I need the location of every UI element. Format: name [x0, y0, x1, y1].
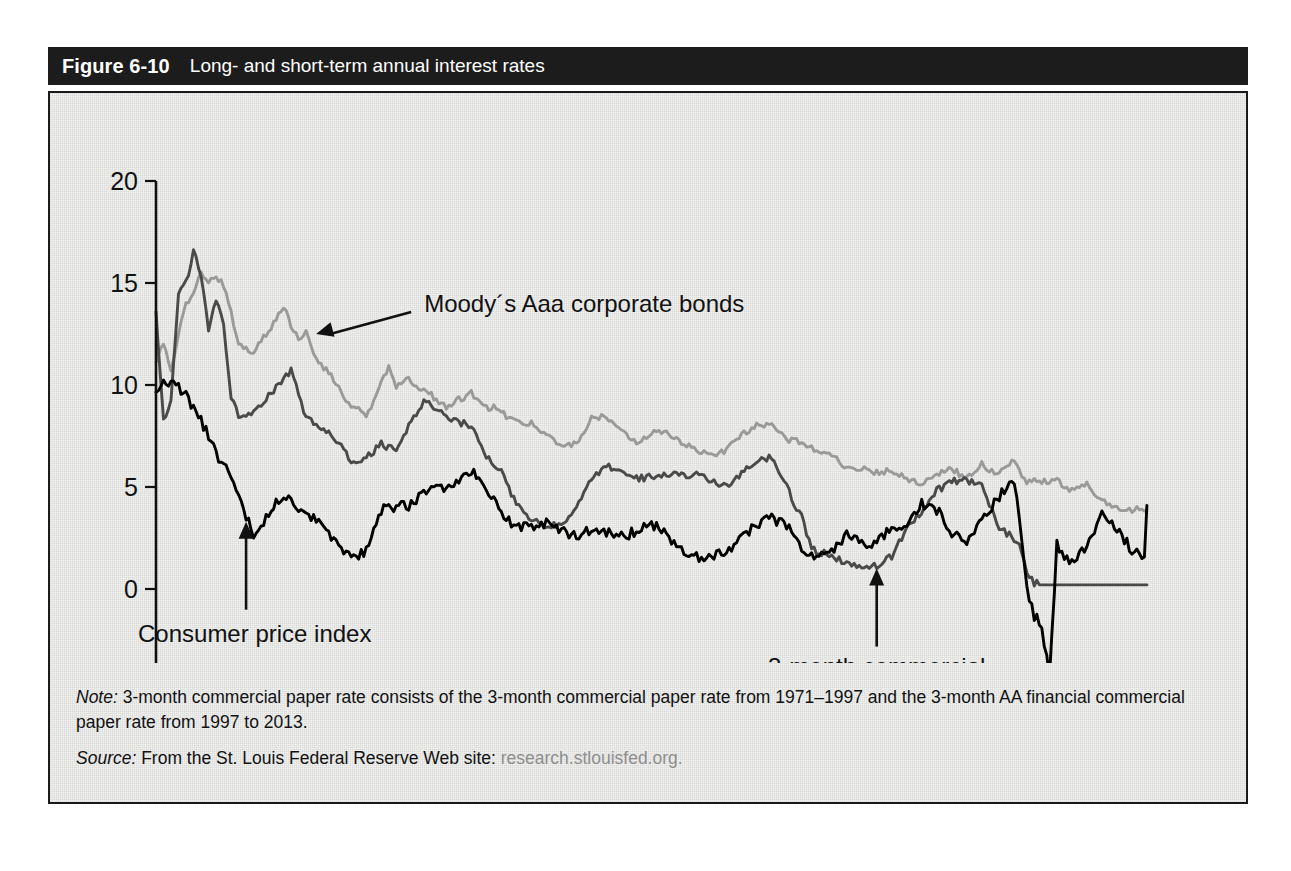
note-line: Note: 3-month commercial paper rate cons… — [76, 685, 1216, 735]
note-label: Note: — [76, 687, 118, 707]
chart-panel: -505101520198019851990199520002005201020… — [48, 91, 1248, 804]
annotation-label: 3-month commercial — [768, 653, 985, 663]
figure-container: Figure 6-10 Long- and short-term annual … — [48, 47, 1248, 804]
y-tick-label: 15 — [110, 269, 138, 297]
source-line: Source: From the St. Louis Federal Reser… — [76, 746, 1216, 771]
y-tick-label: 10 — [110, 371, 138, 399]
figure-notes: Note: 3-month commercial paper rate cons… — [76, 685, 1216, 782]
annotation-label: Moody´s Aaa corporate bonds — [424, 290, 744, 317]
source-text: From the St. Louis Federal Reserve Web s… — [136, 748, 500, 768]
arrowhead — [316, 322, 334, 336]
arrowhead — [869, 569, 884, 586]
axes-layer: -505101520198019851990199520002005201020… — [110, 167, 1235, 663]
figure-number: Figure 6-10 — [62, 55, 170, 78]
figure-title: Long- and short-term annual interest rat… — [190, 55, 545, 77]
figure-title-bar: Figure 6-10 Long- and short-term annual … — [48, 47, 1248, 85]
source-label: Source: — [76, 748, 136, 768]
y-tick-label: 5 — [124, 473, 138, 501]
annotation-label: Consumer price index — [138, 620, 371, 647]
interest-rates-line-chart: -505101520198019851990199520002005201020… — [50, 93, 1246, 663]
y-tick-label: 0 — [124, 575, 138, 603]
note-text: 3-month commercial paper rate consists o… — [76, 687, 1185, 732]
y-tick-label: 20 — [110, 167, 138, 195]
source-url[interactable]: research.stlouisfed.org. — [501, 748, 683, 768]
annotation-leader — [330, 312, 411, 334]
annotation-layer: Moody´s Aaa corporate bondsConsumer pric… — [138, 290, 985, 663]
plot-area: -505101520198019851990199520002005201020… — [50, 93, 1246, 663]
